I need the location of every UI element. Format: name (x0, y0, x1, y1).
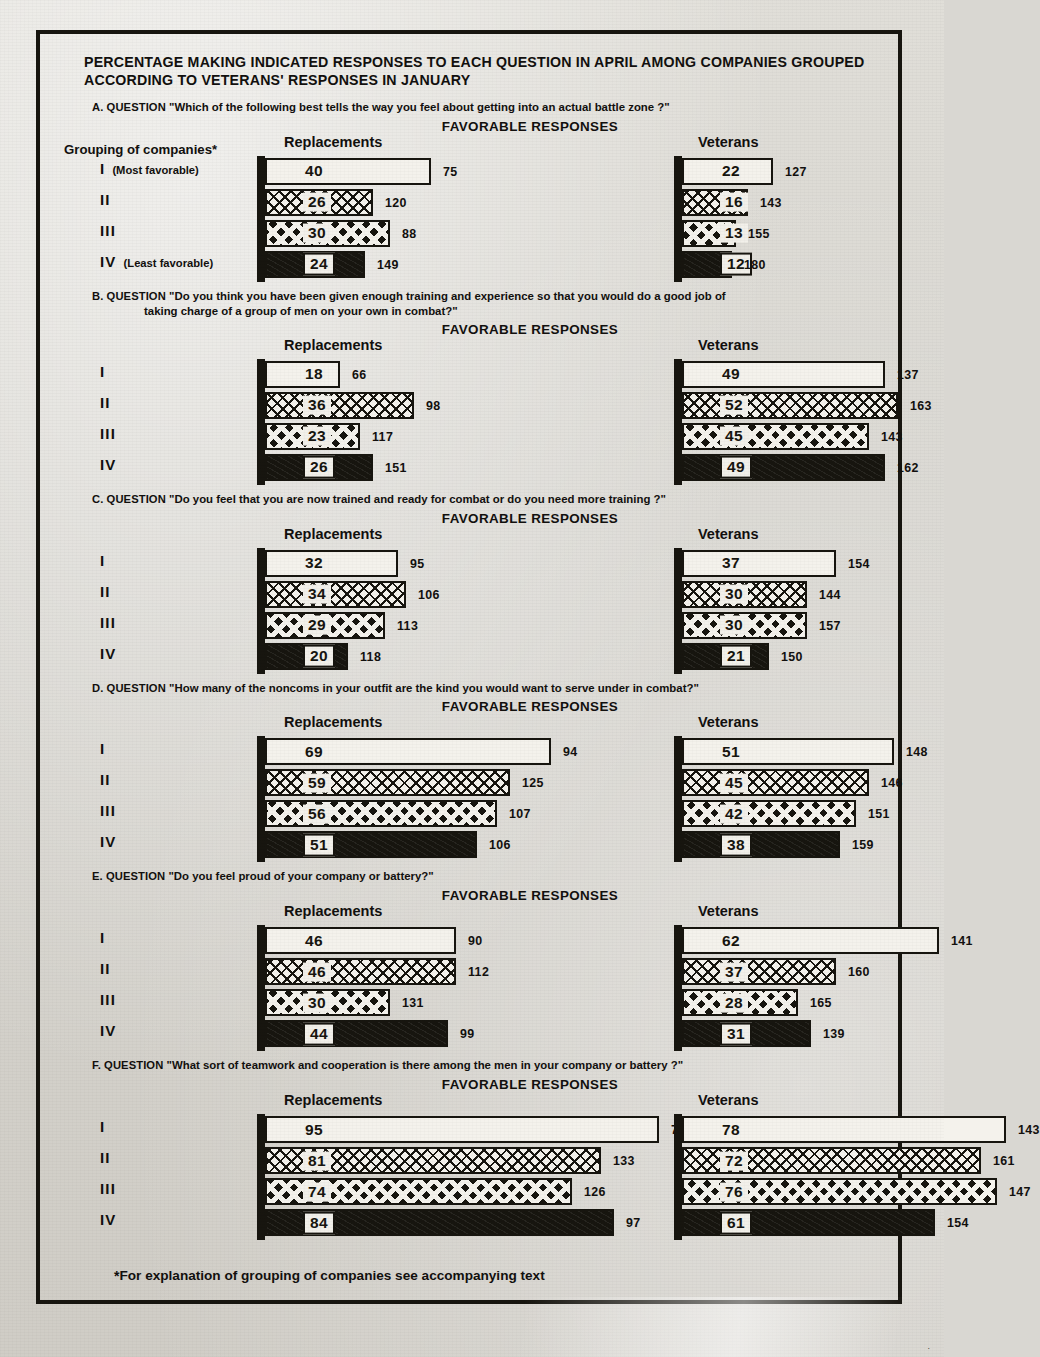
column-header-veterans: Veterans (698, 1092, 758, 1108)
bar-rows: I(Most favorable)407522127II2612016143II… (58, 156, 882, 280)
sections-container: A. QUESTION "Which of the following best… (58, 100, 882, 1238)
bar-replacements-I: 18 (265, 361, 340, 388)
column-header-veterans: Veterans (698, 526, 758, 542)
bar-value-replacements-II: 46 (303, 962, 331, 981)
bar-replacements-IV: 84 (265, 1209, 614, 1236)
bar-n-veterans-I: 143 (1018, 1123, 1040, 1137)
row-label-IV: IV(Least favorable) (100, 253, 213, 270)
question-text: "Which of the following best tells the w… (169, 101, 670, 113)
bar-n-veterans-II: 161 (993, 1154, 1015, 1168)
bar-replacements-II: 34 (265, 581, 406, 608)
bar-row-I: I699451148 (58, 736, 882, 767)
row-label-I: I (100, 552, 105, 569)
bar-row-I: I329537154 (58, 548, 882, 579)
grouping-text: Grouping of companies (64, 142, 212, 157)
question-section-A: A. QUESTION "Which of the following best… (58, 100, 882, 280)
bar-rows: I186649137II369852163III2311745143IV2615… (58, 359, 882, 483)
bar-n-replacements-II: 112 (468, 965, 489, 979)
bar-value-veterans-IV: 49 (720, 456, 752, 479)
bar-n-veterans-IV: 162 (897, 461, 919, 475)
column-headers: ReplacementsVeterans (58, 903, 882, 925)
bar-row-II: II2612016143 (58, 187, 882, 218)
bar-value-veterans-IV: 61 (720, 1211, 752, 1234)
bar-value-replacements-II: 34 (303, 585, 331, 604)
bar-replacements-IV: 24 (265, 251, 365, 278)
bar-rows: I329537154II3410630144III2911330157IV201… (58, 548, 882, 672)
question-line: D. QUESTION "How many of the noncoms in … (92, 681, 882, 696)
favorable-responses-label: FAVORABLE RESPONSES (58, 699, 882, 714)
bar-veterans-II: 72 (682, 1147, 981, 1174)
favorable-responses-label: FAVORABLE RESPONSES (58, 322, 882, 337)
question-line: E. QUESTION "Do you feel proud of your c… (92, 869, 882, 884)
favorable-responses-label: FAVORABLE RESPONSES (58, 511, 882, 526)
bar-n-replacements-I: 94 (563, 745, 578, 759)
bar-veterans-III: 45 (682, 423, 869, 450)
bar-n-replacements-I: 66 (352, 368, 367, 382)
axis-spine-veterans (674, 548, 682, 674)
bar-replacements-III: 74 (265, 1178, 572, 1205)
bar-value-replacements-IV: 84 (303, 1211, 335, 1234)
bar-row-II: II369852163 (58, 390, 882, 421)
bar-value-veterans-III: 76 (720, 1182, 748, 1201)
bar-n-veterans-II: 143 (760, 196, 782, 210)
row-label-I: I (100, 929, 105, 946)
bar-rows: I957678143II8113372161III7412676147IV849… (58, 1114, 882, 1238)
bar-value-veterans-III: 30 (720, 616, 748, 635)
column-headers: ReplacementsVeterans (58, 526, 882, 548)
bar-value-veterans-I: 49 (720, 365, 742, 383)
bar-value-replacements-IV: 20 (303, 645, 335, 668)
row-label-III: III (100, 1180, 116, 1197)
question-line: F. QUESTION "What sort of teamwork and c… (92, 1058, 882, 1073)
column-header-replacements: Replacements (284, 337, 382, 353)
bar-veterans-IV: 21 (682, 643, 769, 670)
bar-n-replacements-III: 117 (372, 430, 393, 444)
bar-replacements-I: 40 (265, 158, 431, 185)
bar-value-replacements-II: 36 (303, 396, 331, 415)
bar-row-II: II8113372161 (58, 1145, 882, 1176)
row-label-I: I (100, 1118, 105, 1135)
grouping-marker: * (212, 142, 217, 157)
column-header-replacements: Replacements (284, 903, 382, 919)
page-title: PERCENTAGE MAKING INDICATED RESPONSES TO… (84, 54, 884, 90)
bar-value-veterans-II: 52 (720, 396, 748, 415)
axis-spine-replacements (257, 925, 265, 1051)
bar-replacements-II: 26 (265, 189, 373, 216)
bar-n-replacements-IV: 99 (460, 1027, 475, 1041)
bar-value-veterans-IV: 38 (720, 834, 752, 857)
column-header-replacements: Replacements (284, 714, 382, 730)
bar-value-veterans-II: 37 (720, 962, 748, 981)
column-header-veterans: Veterans (698, 337, 758, 353)
chart-frame: PERCENTAGE MAKING INDICATED RESPONSES TO… (36, 30, 902, 1304)
bar-row-IV: IV2011821150 (58, 641, 882, 672)
bar-n-veterans-IV: 150 (781, 650, 803, 664)
bar-veterans-I: 62 (682, 927, 939, 954)
bar-rows: I469062141II4611237160III3013128165IV449… (58, 925, 882, 1049)
bar-value-replacements-III: 29 (303, 616, 331, 635)
bar-veterans-I: 22 (682, 158, 773, 185)
row-note-most-favorable: (Most favorable) (112, 164, 198, 176)
bar-row-I: I186649137 (58, 359, 882, 390)
question-letter: A. QUESTION (92, 101, 169, 113)
bar-n-replacements-II: 125 (522, 776, 544, 790)
question-letter: D. QUESTION (92, 682, 169, 694)
bar-veterans-IV: 38 (682, 831, 840, 858)
bar-replacements-II: 36 (265, 392, 414, 419)
bar-n-replacements-IV: 151 (385, 461, 407, 475)
bar-veterans-II: 45 (682, 769, 869, 796)
bar-row-III: III3013128165 (58, 987, 882, 1018)
bar-n-replacements-III: 131 (402, 996, 424, 1010)
bar-value-veterans-IV: 31 (720, 1022, 752, 1045)
row-label-IV: IV (100, 1211, 117, 1228)
bar-replacements-II: 59 (265, 769, 510, 796)
row-label-I: I (100, 363, 105, 380)
bar-veterans-I: 51 (682, 738, 894, 765)
bar-row-III: III2311745143 (58, 421, 882, 452)
column-header-veterans: Veterans (698, 134, 758, 150)
bar-row-III: III2911330157 (58, 610, 882, 641)
bar-n-replacements-III: 126 (584, 1185, 606, 1199)
bar-veterans-III: 28 (682, 989, 798, 1016)
bar-n-veterans-III: 143 (881, 430, 903, 444)
axis-spine-veterans (674, 359, 682, 485)
bar-n-replacements-I: 75 (443, 165, 458, 179)
bar-value-replacements-I: 40 (303, 162, 325, 180)
